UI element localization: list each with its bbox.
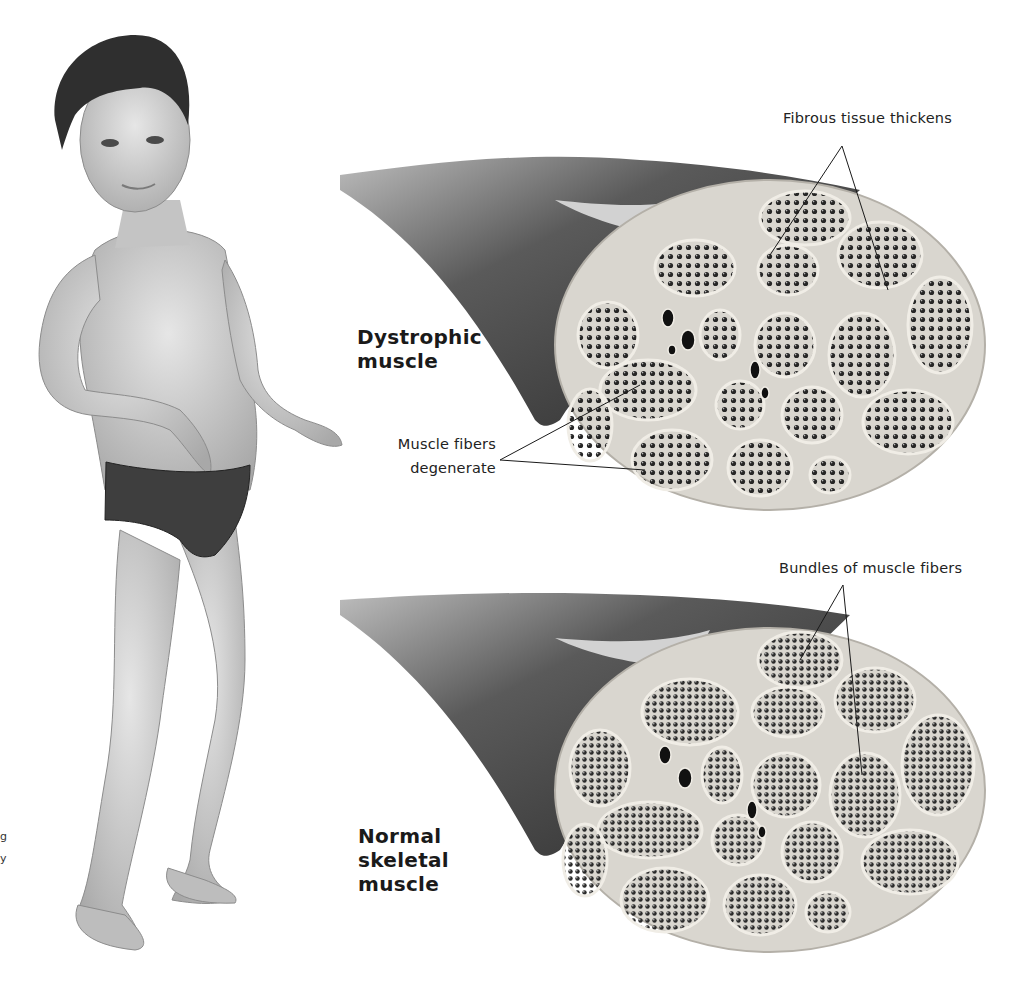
edge-text-fragment: g: [0, 830, 7, 843]
title-line: muscle: [357, 349, 482, 373]
panel-title-normal: Normal skeletal muscle: [358, 824, 449, 896]
callout-bundles-of-muscle-fibers: Bundles of muscle fibers: [779, 560, 962, 576]
panel-title-dystrophic: Dystrophic muscle: [357, 325, 482, 373]
normal-muscle-illustration: [340, 593, 985, 952]
callout-muscle-fibers-degenerate: Muscle fibers degenerate: [360, 432, 496, 480]
title-line: muscle: [358, 872, 449, 896]
edge-text-fragment: y: [0, 852, 7, 865]
callout-fibrous-tissue-thickens: Fibrous tissue thickens: [783, 110, 952, 126]
callout-line: degenerate: [360, 456, 496, 480]
callout-line: Muscle fibers: [360, 432, 496, 456]
illustration-canvas: [0, 0, 1024, 1001]
child-figure: [39, 35, 342, 950]
title-line: Normal: [358, 824, 449, 848]
title-line: Dystrophic: [357, 325, 482, 349]
title-line: skeletal: [358, 848, 449, 872]
